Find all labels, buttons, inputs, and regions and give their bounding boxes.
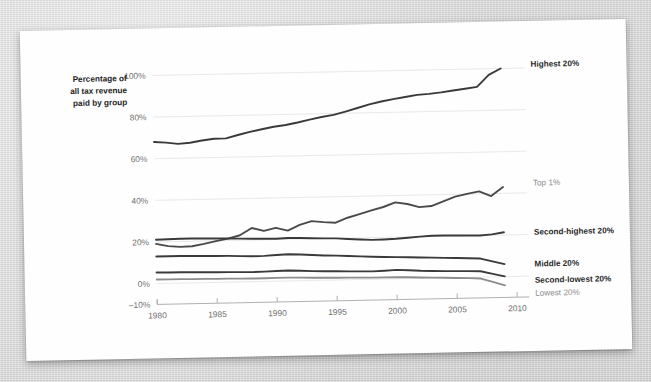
series-line bbox=[153, 68, 502, 144]
series-label-middle-20: Middle 20% bbox=[534, 259, 579, 269]
gridline-y-100 bbox=[153, 68, 525, 75]
x-tick-label: 1995 bbox=[328, 307, 347, 317]
x-tick-label: 2010 bbox=[508, 303, 527, 313]
series-label-highest-20: Highest 20% bbox=[530, 59, 580, 69]
y-axis-caption-line: all tax revenue bbox=[70, 86, 128, 96]
x-tick-label: 1990 bbox=[268, 308, 287, 318]
y-tick-label: 80% bbox=[130, 112, 148, 122]
x-tick-label: 1980 bbox=[148, 310, 167, 320]
series-label-lowest-20: Lowest 20% bbox=[535, 288, 580, 298]
series-label-second-highest-20: Second-highest 20% bbox=[534, 226, 615, 237]
gridline-y-60 bbox=[154, 151, 526, 158]
y-axis-caption-line: Percentage of bbox=[72, 74, 127, 84]
y-tick-label: 100% bbox=[124, 71, 146, 81]
x-tick-label: 2005 bbox=[448, 304, 467, 314]
x-axis-line bbox=[157, 297, 529, 304]
series-line bbox=[157, 266, 505, 284]
x-tick-label: 1985 bbox=[208, 309, 227, 319]
y-tick-label: 60% bbox=[130, 154, 148, 164]
line-chart: –10%0%20%40%60%80%100%198019851990199520… bbox=[20, 19, 633, 361]
y-tick-label: 20% bbox=[132, 237, 150, 247]
chart-svg: –10%0%20%40%60%80%100%198019851990199520… bbox=[20, 19, 633, 361]
y-tick-label: 40% bbox=[131, 195, 149, 205]
series-label-top-1: Top 1% bbox=[533, 178, 560, 188]
chart-paper: –10%0%20%40%60%80%100%198019851990199520… bbox=[20, 19, 633, 361]
y-tick-label: –10% bbox=[129, 300, 151, 310]
y-tick-label: 0% bbox=[138, 279, 151, 289]
series-label-second-lowest-20: Second-lowest 20% bbox=[535, 274, 612, 285]
y-axis-caption-line: paid by group bbox=[73, 98, 127, 108]
series-line bbox=[156, 250, 504, 272]
gridline-y-40 bbox=[155, 193, 527, 200]
x-tick-label: 2000 bbox=[388, 305, 407, 315]
